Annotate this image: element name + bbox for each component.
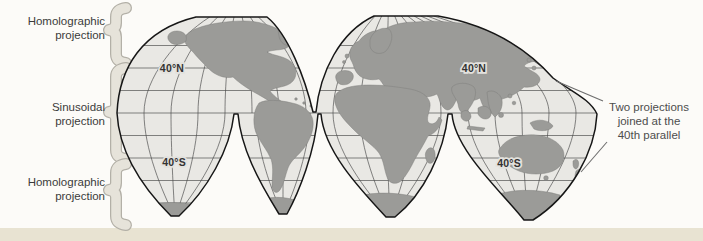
projection-label-middle-line2: projection	[55, 115, 105, 127]
british-isles	[345, 54, 349, 58]
philippines	[508, 94, 512, 98]
tasmania	[544, 176, 549, 181]
caribbean-island	[303, 102, 306, 105]
madagascar	[425, 148, 435, 164]
annotation-line2: joined at the	[617, 115, 681, 127]
label-40n-west: 40°N	[160, 62, 184, 74]
annotation-line3: 40th parallel	[618, 129, 681, 141]
japan	[527, 58, 531, 62]
projection-label-top-line1: Homolographic	[28, 15, 106, 27]
caribbean-island	[295, 98, 298, 101]
page-edge-strip	[0, 228, 703, 241]
label-40s-east: 40°S	[497, 157, 521, 169]
goode-homolosine-map: Homolographic projection Sinusoidal proj…	[0, 0, 703, 241]
projection-label-bottom-line2: projection	[55, 190, 105, 202]
label-40n-east: 40°N	[462, 62, 486, 74]
goode-projection-figure: Homolographic projection Sinusoidal proj…	[0, 0, 703, 241]
sulawesi	[499, 113, 504, 118]
projection-label-bottom-line1: Homolographic	[28, 176, 106, 188]
label-40s-west: 40°S	[162, 156, 186, 168]
british-isles	[343, 61, 346, 64]
philippines	[512, 101, 516, 105]
projection-label-middle-line1: Sinusoidal	[52, 101, 105, 113]
new-zealand	[573, 159, 579, 168]
sumatra	[461, 110, 471, 121]
projection-label-top-line2: projection	[55, 29, 105, 41]
alaska	[168, 31, 187, 45]
japan	[532, 66, 536, 70]
annotation-line1: Two projections	[609, 101, 689, 113]
